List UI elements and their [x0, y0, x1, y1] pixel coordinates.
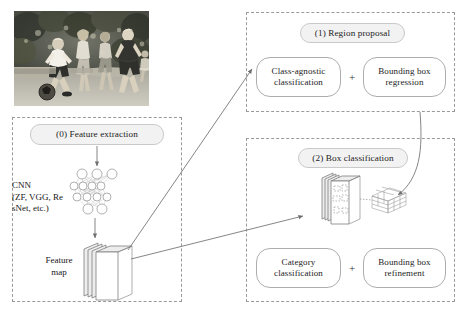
label-cnn-line2: (ZF, VGG, Re: [12, 192, 74, 204]
label-feature-map-line2: map: [28, 267, 90, 279]
header-region-proposal[interactable]: (1) Region proposal: [300, 23, 405, 43]
node-bounding-box-regression[interactable]: Bounding box regression: [363, 57, 446, 97]
input-image: [14, 11, 149, 106]
header-box-classification[interactable]: (2) Box classification: [298, 148, 408, 168]
header-box-classification-label: (2) Box classification: [312, 153, 393, 164]
photo-icon: [14, 11, 149, 106]
label-feature-map-line1: Feature: [28, 255, 90, 267]
label-feature-map: Feature map: [28, 255, 90, 278]
header-feature-extraction[interactable]: (0) Feature extraction: [30, 124, 164, 145]
header-region-proposal-label: (1) Region proposal: [315, 28, 390, 39]
label-cnn-line3: sNet, etc.): [12, 203, 74, 215]
label-cnn-line1: CNN: [12, 180, 74, 192]
node-category-classification-label: Category classification: [257, 257, 340, 278]
node-class-agnostic-classification-label: Class-agnostic classification: [257, 66, 340, 87]
diagram-canvas: (0) Feature extraction (1) Region propos…: [0, 0, 463, 312]
label-cnn-backbone: CNN (ZF, VGG, Re sNet, etc.): [12, 180, 74, 215]
plus-operator-stage1: +: [345, 70, 359, 84]
plus-operator-stage2-label: +: [349, 262, 355, 274]
node-bounding-box-refinement-label: Bounding box refinement: [364, 257, 445, 278]
node-bounding-box-refinement[interactable]: Bounding box refinement: [363, 248, 446, 288]
node-class-agnostic-classification[interactable]: Class-agnostic classification: [256, 57, 341, 97]
node-bounding-box-regression-label: Bounding box regression: [364, 66, 445, 87]
node-category-classification[interactable]: Category classification: [256, 248, 341, 288]
plus-operator-stage2: +: [345, 261, 359, 275]
header-feature-extraction-label: (0) Feature extraction: [56, 129, 138, 140]
plus-operator-stage1-label: +: [349, 71, 355, 83]
